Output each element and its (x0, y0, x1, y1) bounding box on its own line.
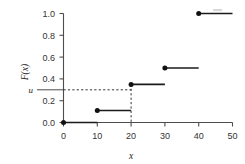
step-dot-3 (162, 66, 167, 71)
x-tick-label-40: 40 (194, 131, 204, 141)
cdf-step-chart: 1.0 0.8 0.6 0.4 0.2 0.0 0 10 20 30 40 50… (0, 0, 245, 164)
y-tick-label-0.2: 0.2 (42, 96, 55, 106)
y-tick-label-0.6: 0.6 (42, 53, 55, 63)
scan-artifact (213, 9, 222, 11)
y-axis-title: F(x) (20, 64, 31, 81)
y-axis-ticks (60, 14, 64, 123)
y-tick-label-0.8: 0.8 (42, 31, 55, 41)
chart-canvas: 1.0 0.8 0.6 0.4 0.2 0.0 0 10 20 30 40 50… (0, 0, 245, 164)
step-dot-4 (196, 11, 201, 16)
step-dot-2 (129, 82, 134, 87)
x-tick-label-50: 50 (227, 131, 237, 141)
step-dot-1 (95, 108, 100, 113)
x-tick-label-0: 0 (61, 131, 66, 141)
x-axis-title: x (128, 151, 134, 161)
y-tick-label-0.4: 0.4 (42, 74, 55, 84)
step-dot-0 (61, 120, 66, 125)
step-function-series (64, 14, 233, 123)
x-tick-label-30: 30 (160, 131, 170, 141)
u-marker-label: u (29, 85, 34, 95)
x-tick-label-20: 20 (126, 131, 136, 141)
x-tick-label-10: 10 (92, 131, 102, 141)
y-tick-label-0.0: 0.0 (42, 118, 55, 128)
y-tick-label-1.0: 1.0 (42, 9, 55, 19)
